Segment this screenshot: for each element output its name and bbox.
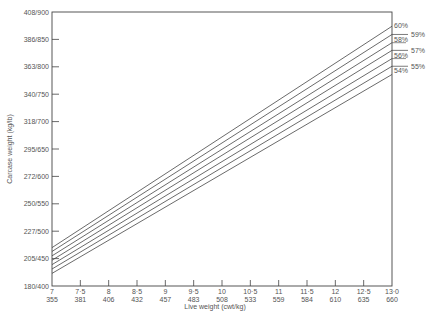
x-tick-label-cwt: 10·5: [243, 288, 257, 295]
y-tick-label: 340/750: [24, 91, 49, 98]
y-tick-label: 295/650: [24, 146, 49, 153]
y-tick-label: 318/700: [24, 118, 49, 125]
x-tick-label-kg: 483: [188, 296, 200, 303]
series-line-57pct: [52, 50, 392, 260]
x-tick-label-kg: 381: [74, 296, 86, 303]
x-tick-label-kg: 406: [103, 296, 115, 303]
x-tick-label-cwt: 7·5: [75, 288, 85, 295]
x-tick-label-kg: 355: [46, 296, 58, 303]
x-tick-label-cwt: 8·5: [132, 288, 142, 295]
y-tick-label: 363/800: [24, 63, 49, 70]
series-label: 58%: [394, 36, 408, 43]
y-tick-label: 272/600: [24, 173, 49, 180]
series-line-58pct: [52, 43, 392, 256]
series-lines: [52, 26, 392, 273]
x-tick-label-kg: 457: [159, 296, 171, 303]
x-tick-label-cwt: 10: [218, 288, 226, 295]
series-label: 57%: [411, 47, 425, 54]
y-tick-label: 180/400: [24, 283, 49, 290]
x-tick-label-cwt: 9·5: [189, 288, 199, 295]
y-tick-label: 408/900: [24, 9, 49, 16]
series-line-56pct: [52, 59, 392, 265]
x-tick-label-cwt: 7: [50, 288, 54, 295]
series-label: 54%: [394, 67, 408, 74]
x-tick-label-cwt: 12·5: [357, 288, 371, 295]
series-line-59pct: [52, 34, 392, 251]
series-label: 60%: [394, 22, 408, 29]
series-label: 55%: [411, 63, 425, 70]
x-tick-label-cwt: 11: [275, 288, 282, 295]
carcase-weight-chart: 180/400205/450227/500250/550272/600295/6…: [0, 0, 432, 318]
x-tick-label-kg: 635: [358, 296, 370, 303]
x-tick-label-kg: 610: [329, 296, 341, 303]
x-tick-label-kg: 559: [273, 296, 285, 303]
y-axis: 180/400205/450227/500250/550272/600295/6…: [24, 9, 59, 290]
x-axis-title: Live weight (cwt/kg): [184, 303, 245, 311]
y-tick-label: 227/500: [24, 228, 49, 235]
y-tick-label: 386/850: [24, 36, 49, 43]
x-axis: 73557·538184068·543294579·54831050810·55…: [46, 280, 399, 303]
x-tick-label-kg: 584: [301, 296, 313, 303]
series-label: 56%: [394, 52, 408, 59]
x-tick-label-cwt: 11·5: [300, 288, 314, 295]
y-axis-title: Carcase weight (kg/lb): [6, 114, 14, 184]
series-label: 59%: [411, 31, 425, 38]
y-tick-label: 250/550: [24, 200, 49, 207]
series-line-54pct: [52, 74, 392, 273]
x-tick-label-kg: 660: [386, 296, 398, 303]
series-labels: 60%59%58%57%56%55%54%: [392, 22, 425, 74]
x-tick-label-kg: 533: [244, 296, 256, 303]
y-tick-label: 205/450: [24, 255, 49, 262]
x-tick-label-cwt: 13·0: [385, 288, 399, 295]
x-tick-label-kg: 508: [216, 296, 228, 303]
x-tick-label-cwt: 8: [107, 288, 111, 295]
x-tick-label-cwt: 12: [331, 288, 339, 295]
series-line-60pct: [52, 26, 392, 247]
x-tick-label-kg: 432: [131, 296, 143, 303]
series-line-55pct: [52, 66, 392, 269]
x-tick-label-cwt: 9: [163, 288, 167, 295]
